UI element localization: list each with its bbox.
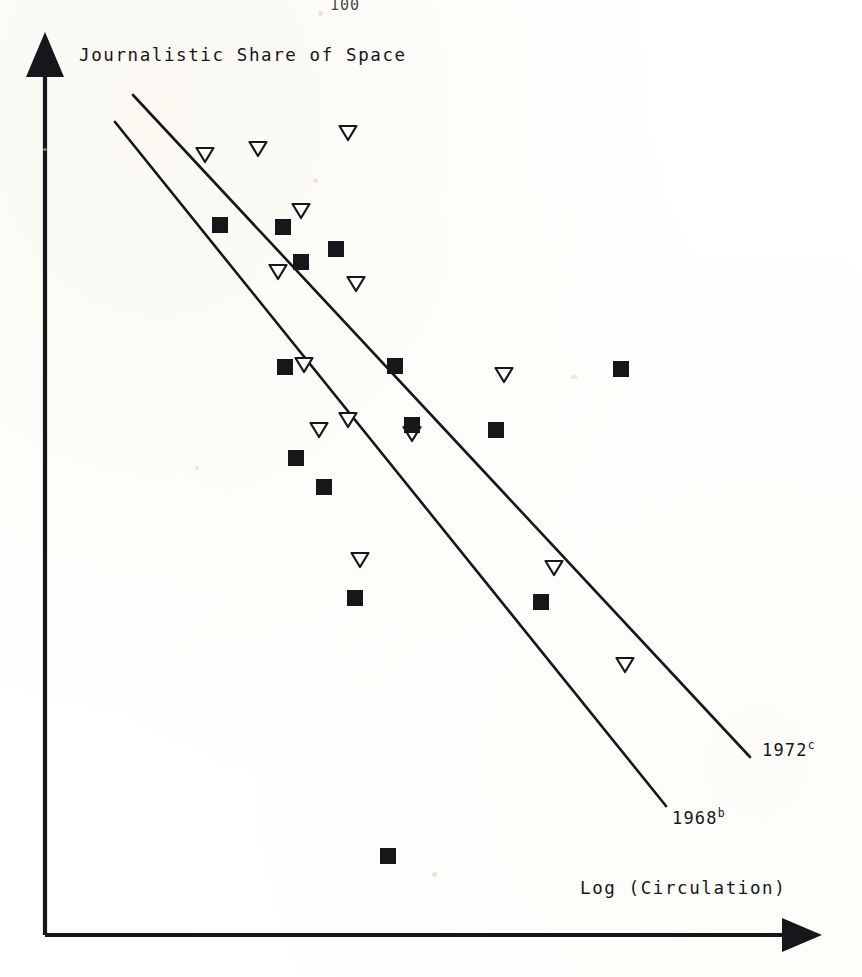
fit-line-1972 — [133, 95, 750, 757]
data-point-triangle-1972 — [348, 277, 365, 291]
scatter-plot-canvas — [0, 0, 862, 977]
data-point-triangle-1972 — [270, 265, 287, 279]
data-point-triangle-1972 — [340, 126, 357, 140]
data-point-square-1968 — [329, 242, 344, 257]
scan-speck — [432, 872, 437, 877]
data-point-square-1968 — [388, 359, 403, 374]
data-point-square-1968 — [534, 595, 549, 610]
data-point-triangle-1972 — [311, 423, 328, 437]
data-point-square-1968 — [278, 360, 293, 375]
data-point-square-1968 — [348, 591, 363, 606]
scanned-figure-page: 100 Journalistic Share of Space Log (Cir… — [0, 0, 862, 977]
data-point-square-1968 — [276, 220, 291, 235]
data-point-square-1968 — [289, 451, 304, 466]
scan-speck — [318, 11, 323, 16]
scan-speck — [195, 466, 199, 470]
data-point-triangle-1972 — [250, 142, 267, 156]
data-point-square-1968 — [489, 423, 504, 438]
data-point-square-1968 — [614, 362, 629, 377]
data-point-triangle-1972 — [293, 204, 310, 218]
scan-speck — [43, 148, 47, 151]
data-point-triangle-1972 — [617, 658, 634, 672]
scan-speck — [313, 178, 318, 183]
data-point-square-1968 — [381, 849, 396, 864]
fit-lines-group — [115, 95, 750, 806]
data-point-triangle-1972 — [546, 561, 563, 575]
data-point-triangle-1972 — [496, 368, 513, 382]
data-point-square-1968 — [317, 480, 332, 495]
scan-speck — [571, 375, 577, 379]
axes-group — [26, 32, 822, 952]
x-axis-arrow-icon — [782, 918, 822, 952]
fit-line-1968 — [115, 122, 666, 806]
data-point-square-1968 — [213, 218, 228, 233]
data-point-square-1968 — [405, 418, 420, 433]
data-point-triangle-1972 — [352, 553, 369, 567]
y-axis-arrow-icon — [26, 32, 64, 77]
data-point-triangle-1972 — [197, 148, 214, 162]
data-point-square-1968 — [294, 255, 309, 270]
